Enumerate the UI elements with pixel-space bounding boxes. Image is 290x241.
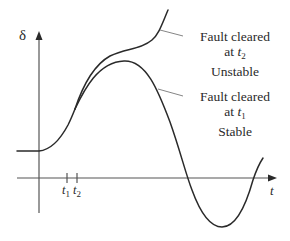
y-axis-arrow-icon [36, 31, 43, 40]
tick-label-t2: t2 [73, 184, 81, 201]
x-axis-arrow-icon [268, 175, 277, 182]
annotation-stable-line2: at t1 [186, 104, 284, 124]
annotation-stable: Fault cleared at t1 Stable [186, 89, 284, 139]
stable-curve [75, 61, 263, 227]
annotation-unstable: Fault cleared at t2 Unstable [186, 29, 284, 79]
leader-stable [158, 89, 183, 96]
unstable-curve [75, 10, 168, 109]
y-axis-label: δ [19, 28, 26, 43]
annotation-unstable-line2: at t2 [186, 44, 284, 64]
annotation-unstable-line3: Unstable [186, 64, 284, 79]
annotation-stable-line3: Stable [186, 124, 284, 139]
tick-label-t1: t1 [62, 184, 70, 201]
annotation-unstable-line1: Fault cleared [186, 29, 284, 44]
annotation-stable-line1: Fault cleared [186, 89, 284, 104]
x-axis-label: t [270, 183, 274, 198]
pre-fault-curve [17, 109, 75, 151]
swing-curve-diagram: δ t t1 t2 Fault cleared at t2 Unstable F… [0, 0, 290, 241]
leader-unstable [160, 30, 183, 36]
